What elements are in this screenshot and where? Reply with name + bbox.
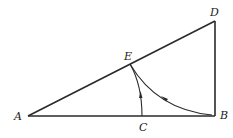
label-E: E xyxy=(123,50,132,63)
label-C: C xyxy=(139,121,148,134)
arc-CE xyxy=(130,64,142,116)
segment-AD xyxy=(28,21,215,116)
geometry-diagram: A B C D E xyxy=(0,0,233,138)
label-A: A xyxy=(13,110,22,123)
label-B: B xyxy=(219,109,228,122)
label-D: D xyxy=(209,6,219,19)
